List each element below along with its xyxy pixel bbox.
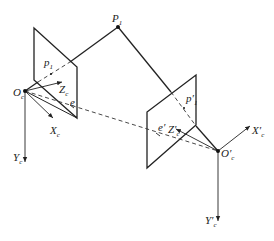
label-right-z: Z′c xyxy=(168,124,180,138)
ray-p1-right xyxy=(118,27,171,92)
epipole-right-mark xyxy=(156,133,160,136)
dashed-ray-left xyxy=(38,62,70,82)
label-left-x: Xc xyxy=(50,125,60,139)
label-ocp: O′c xyxy=(221,148,234,162)
label-oc: Oc xyxy=(13,87,24,101)
label-left-image-point: p1 xyxy=(44,57,53,71)
point-p1-right-image xyxy=(183,107,185,109)
label-right-image-point: p′1 xyxy=(186,93,197,107)
label-left-y: Yc xyxy=(13,152,22,166)
label-right-y: Y′c xyxy=(205,215,217,229)
label-right-epipole: e′ xyxy=(158,122,165,133)
label-p1: P1 xyxy=(112,13,122,27)
label-right-x: X′c xyxy=(252,125,264,139)
point-p1-left-image xyxy=(50,73,52,75)
point-ocp xyxy=(216,149,220,153)
label-left-z: Zc xyxy=(59,84,68,98)
right-image-plane xyxy=(147,75,196,168)
epipolar-diagram xyxy=(0,0,274,241)
label-left-epipole: e xyxy=(70,97,75,108)
ray-p1-left xyxy=(70,27,118,62)
